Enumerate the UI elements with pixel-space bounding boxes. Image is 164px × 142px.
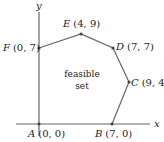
vertex-b-dot xyxy=(110,122,113,125)
region-label-line1: feasible xyxy=(64,69,100,79)
region-label-line2: set xyxy=(75,81,89,91)
feasible-set-diagram: x y A(0, 0) B(7, 0) C(9, 4) D(7, 7) E(4,… xyxy=(0,0,164,142)
y-axis-label: y xyxy=(35,0,42,11)
vertex-e-dot xyxy=(79,32,82,35)
vertex-b-label: B(7, 0) xyxy=(94,128,132,139)
vertex-a-label: A(0, 0) xyxy=(27,128,65,139)
vertex-f-label: F(0, 7) xyxy=(2,42,40,53)
vertex-a-dot xyxy=(37,122,40,125)
vertex-d-dot xyxy=(111,46,114,49)
vertex-c-label: C(9, 4) xyxy=(131,77,164,88)
vertex-e-label: E(4, 9) xyxy=(62,18,100,29)
x-axis-label: x xyxy=(154,118,160,129)
vertex-d-label: D(7, 7) xyxy=(115,41,154,52)
